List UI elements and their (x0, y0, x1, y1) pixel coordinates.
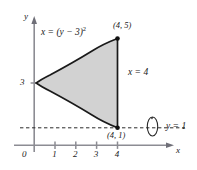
origin-label: 0 (22, 150, 27, 159)
x-tick-label-3: 3 (94, 150, 99, 159)
curve-equation-exponent: 2 (83, 25, 86, 32)
y-axis-label: y (24, 12, 28, 21)
x-tick-label-2: 2 (73, 150, 78, 159)
curve-equation-label: x = (y − 3)2 (41, 26, 86, 38)
figure-canvas (0, 0, 197, 170)
shaded-region (36, 39, 117, 128)
rotation-arrow-icon (147, 117, 157, 136)
x-tick-label-4: 4 (115, 150, 120, 159)
x-axis-arrowhead (166, 142, 174, 148)
y-tick-label-3: 3 (20, 78, 25, 87)
x-tick-label-1: 1 (52, 150, 57, 159)
curve-equation-text: x = (y − 3) (41, 27, 83, 37)
y-axis-arrowhead (31, 16, 37, 24)
axis-of-revolution-label: y = 1 (166, 122, 186, 132)
point-label-bottom: (4, 1) (107, 131, 125, 140)
point-marker-top (115, 36, 120, 41)
math-figure: y x 0 1 2 3 4 3 x = (y − 3)2 (4, 5) (4, … (0, 0, 197, 170)
point-label-top: (4, 5) (113, 21, 131, 30)
vertical-line-label: x = 4 (128, 68, 148, 78)
x-axis-label: x (176, 146, 180, 155)
